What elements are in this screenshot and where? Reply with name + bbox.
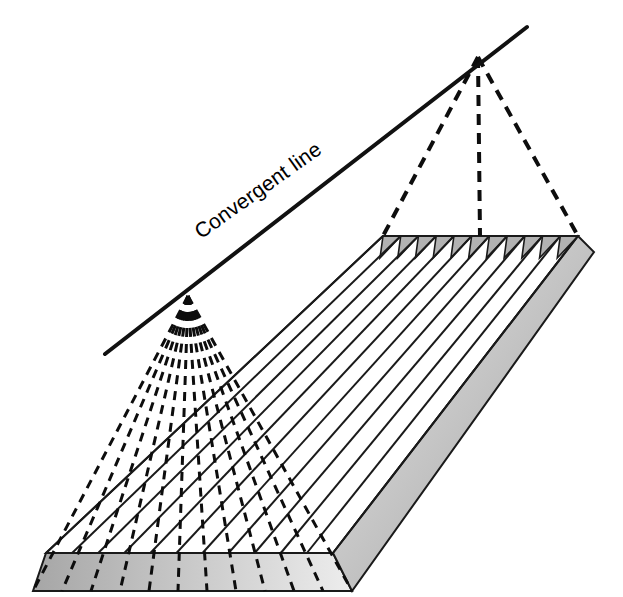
convergent-line-diagram: Convergent line — [0, 0, 623, 597]
slab-front-face — [33, 553, 352, 591]
diagram-canvas: Convergent line — [0, 0, 623, 597]
